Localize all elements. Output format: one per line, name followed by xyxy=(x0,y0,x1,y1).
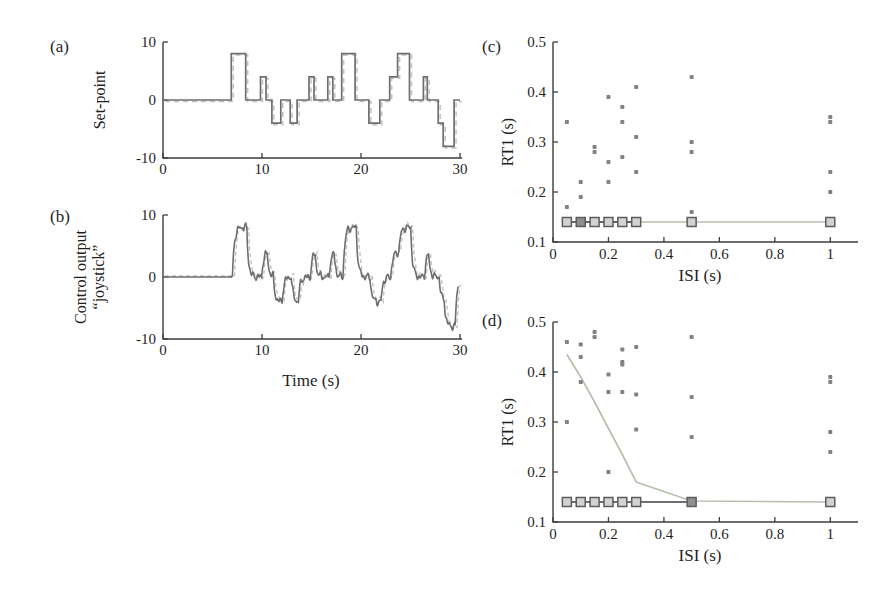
rt-dot-d xyxy=(620,390,624,394)
panel-d-xlabel: ISI (s) xyxy=(679,546,722,565)
y-tick-label-b: 0 xyxy=(149,269,157,285)
setpoint-trace-light xyxy=(165,55,462,148)
y-tick-label-d: 0.3 xyxy=(527,414,546,430)
rt-dot-d xyxy=(579,355,583,359)
median-square-c xyxy=(826,218,835,227)
rt-dot-d xyxy=(579,343,583,347)
median-square-d xyxy=(576,498,585,507)
rt-dot-c xyxy=(593,150,597,154)
y-tick-label-c: 0.5 xyxy=(527,34,546,50)
panel-c-letter: (c) xyxy=(482,37,501,56)
rt-dot-d xyxy=(690,435,694,439)
panel-c-plot: 00.20.40.60.810.10.20.30.40.5 xyxy=(527,34,858,262)
median-square-c xyxy=(687,218,696,227)
rt-dot-c xyxy=(828,170,832,174)
rt-dot-c xyxy=(565,205,569,209)
x-tick-label-b: 0 xyxy=(159,342,167,358)
panel-c-xlabel: ISI (s) xyxy=(679,266,722,285)
panel-c: (c) RT1 (s) ISI (s) 00.20.40.60.810.10.2… xyxy=(482,34,858,285)
rt-dot-d xyxy=(565,340,569,344)
median-square-c xyxy=(604,218,613,227)
rt-dot-d xyxy=(593,330,597,334)
y-tick-label-b: 10 xyxy=(141,207,156,223)
rt-dot-c xyxy=(606,95,610,99)
x-tick-label-b: 30 xyxy=(453,342,468,358)
median-square-d xyxy=(562,498,571,507)
rt-dot-c xyxy=(690,150,694,154)
x-tick-label-a: 0 xyxy=(159,161,167,177)
rt-dot-d xyxy=(690,395,694,399)
panel-b-xlabel: Time (s) xyxy=(282,371,339,390)
x-tick-label-a: 20 xyxy=(354,161,369,177)
median-square-d xyxy=(590,498,599,507)
rt-dot-c xyxy=(606,180,610,184)
x-tick-label-c: 1 xyxy=(827,246,835,262)
x-tick-label-c: 0.2 xyxy=(599,246,618,262)
panel-d: (d) RT1 (s) ISI (s) 00.20.40.60.810.10.2… xyxy=(482,311,858,565)
rt-dot-c xyxy=(593,145,597,149)
rt-dot-d xyxy=(565,420,569,424)
y-tick-label-d: 0.4 xyxy=(527,364,546,380)
axis-c xyxy=(553,42,858,242)
rt-dot-c xyxy=(690,75,694,79)
rt-dot-d xyxy=(606,373,610,377)
y-tick-label-c: 0.3 xyxy=(527,134,546,150)
rt-dot-d xyxy=(606,470,610,474)
x-tick-label-c: 0 xyxy=(549,246,557,262)
rt-dot-c xyxy=(828,190,832,194)
y-tick-label-a: 0 xyxy=(149,92,157,108)
x-tick-label-d: 1 xyxy=(827,526,835,542)
median-square-d xyxy=(687,498,696,507)
panel-b: (b) Control output “joystick” Time (s) 0… xyxy=(50,207,468,390)
rt-dot-d xyxy=(828,430,832,434)
panel-a-ylabel: Set-point xyxy=(91,70,109,129)
x-tick-label-d: 0 xyxy=(549,526,557,542)
panel-d-letter: (d) xyxy=(482,311,502,330)
y-tick-label-c: 0.4 xyxy=(527,84,546,100)
median-square-c xyxy=(562,218,571,227)
x-tick-label-a: 10 xyxy=(255,161,270,177)
rt-dot-d xyxy=(634,345,638,349)
panel-a-letter: (a) xyxy=(50,37,69,56)
y-tick-label-c: 0.1 xyxy=(527,234,546,250)
rt-dot-d xyxy=(593,335,597,339)
median-square-c xyxy=(632,218,641,227)
x-tick-label-c: 0.6 xyxy=(710,246,729,262)
median-square-d xyxy=(618,498,627,507)
rt-dot-c xyxy=(579,180,583,184)
x-tick-label-c: 0.4 xyxy=(655,246,674,262)
median-square-c xyxy=(576,218,585,227)
rt-dot-c xyxy=(620,105,624,109)
rt-dot-d xyxy=(634,393,638,397)
panel-d-ylabel: RT1 (s) xyxy=(499,398,517,446)
panel-b-letter: (b) xyxy=(50,207,70,226)
panel-a-plot: 0102030-10010 xyxy=(136,34,468,177)
joystick-trace xyxy=(163,224,458,331)
y-tick-label-d: 0.5 xyxy=(527,314,546,330)
y-tick-label-a: 10 xyxy=(141,34,156,50)
x-tick-label-d: 0.8 xyxy=(765,526,784,542)
panel-b-ylabel-line1: Control output xyxy=(72,230,90,324)
axis-d xyxy=(553,322,858,522)
figure-canvas: (a) Set-point 0102030-10010 (b) Control … xyxy=(0,0,895,595)
rt-dot-c xyxy=(690,140,694,144)
rt-dot-d xyxy=(579,380,583,384)
rt-dot-c xyxy=(828,120,832,124)
y-tick-label-a: -10 xyxy=(136,150,156,166)
rt-dot-d xyxy=(620,348,624,352)
rt-dot-d xyxy=(634,428,638,432)
panel-b-plot: 0102030-10010 xyxy=(136,207,468,358)
x-tick-label-d: 0.4 xyxy=(655,526,674,542)
median-square-c xyxy=(618,218,627,227)
panel-b-ylabel-line2: “joystick” xyxy=(90,245,108,310)
x-tick-label-b: 10 xyxy=(255,342,270,358)
y-tick-label-c: 0.2 xyxy=(527,184,546,200)
x-tick-label-a: 30 xyxy=(453,161,468,177)
rt-dot-c xyxy=(606,160,610,164)
rt-dot-c xyxy=(634,85,638,89)
x-tick-label-d: 0.2 xyxy=(599,526,618,542)
panel-a: (a) Set-point 0102030-10010 xyxy=(50,34,468,177)
y-tick-label-b: -10 xyxy=(136,331,156,347)
rt-dot-c xyxy=(634,170,638,174)
rt-dot-c xyxy=(634,135,638,139)
